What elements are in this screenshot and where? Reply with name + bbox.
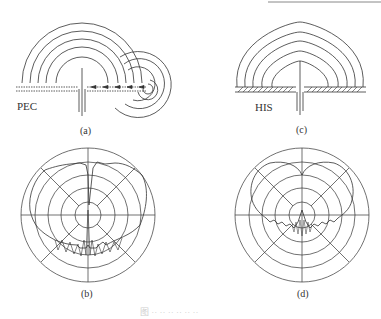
panel-b-polar-plot (21, 148, 155, 282)
figure-canvas: PEC (a) HIS (c) (0, 0, 381, 319)
panel-d-polar-plot (235, 148, 369, 282)
caption-b: (b) (81, 288, 93, 300)
caption-a: (a) (80, 125, 91, 137)
caption-d: (d) (297, 288, 309, 300)
panel-a-diagram (16, 23, 171, 118)
caption-c: (c) (296, 124, 307, 136)
pec-label: PEC (17, 100, 37, 112)
his-label: HIS (255, 101, 273, 113)
figure-caption: 图 ·· ·· ·· ·· ·· ·· (140, 307, 198, 317)
